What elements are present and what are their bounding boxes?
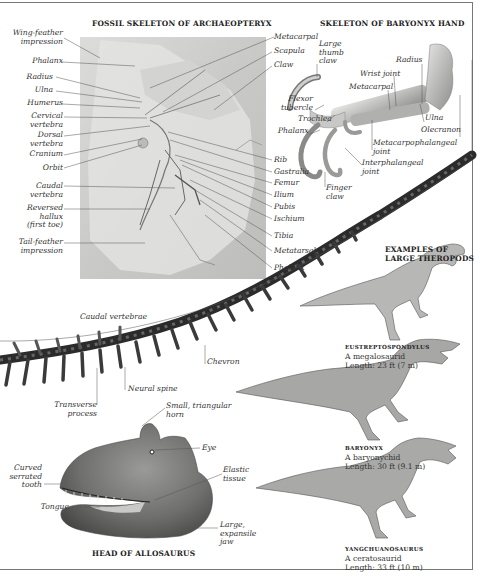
label-metacarpal-hand: Metacarpal xyxy=(349,83,393,92)
label-reversed-hallux: Reversed hallux (first toe) xyxy=(27,204,63,230)
label-claw: Claw xyxy=(274,61,293,70)
label-radius: Radius xyxy=(27,73,54,82)
baryonyx-hand-title: SKELETON OF BARYONYX HAND xyxy=(320,19,465,28)
label-radius-hand: Radius xyxy=(396,56,423,65)
label-small-triangular-horn: Small, triangular horn xyxy=(166,402,231,419)
label-phalanx-left: Phalanx xyxy=(32,57,63,66)
archaeopteryx-title: FOSSIL SKELETON OF ARCHAEOPTERYX xyxy=(92,19,272,28)
label-scapula: Scapula xyxy=(274,47,305,56)
label-dorsal-vertebra: Dorsal vertebra xyxy=(30,131,63,148)
label-wrist-joint: Wrist joint xyxy=(360,70,400,79)
label-ulna-hand: Ulna xyxy=(425,114,443,123)
label-elastic-tissue: Elastic tissue xyxy=(223,466,249,483)
label-humerus: Humerus xyxy=(27,99,63,108)
label-curved-serrated-tooth: Curved serrated tooth xyxy=(9,464,42,490)
label-chevron: Chevron xyxy=(207,358,240,367)
label-ischium: Ischium xyxy=(274,215,305,224)
label-rib: Rib xyxy=(274,156,287,165)
baryonyx-hand-skeleton xyxy=(290,44,453,177)
label-large-thumb-claw: Large thumb claw xyxy=(319,40,344,66)
label-trochlea: Trochlea xyxy=(298,115,332,124)
allosaurus-head-illustration xyxy=(60,424,212,538)
label-ilium: Ilium xyxy=(274,191,294,200)
label-olecranon: Olecranon xyxy=(421,126,461,135)
theropod-type-eustreptospondylus: A megalosaurid xyxy=(345,352,405,361)
label-flexor-tubercle: Flexor tubercle xyxy=(281,95,313,112)
illustration-layer xyxy=(0,0,485,579)
label-gastralia: Gastralia xyxy=(274,168,309,177)
label-neural-spine: Neural spine xyxy=(128,385,178,394)
theropod-length-eustreptospondylus: Length: 23 ft (7 m) xyxy=(345,361,418,370)
allosaurus-head-title: HEAD OF ALLOSAURUS xyxy=(92,549,195,558)
label-femur: Femur xyxy=(274,179,299,188)
theropod-name-eustreptospondylus: EUSTREPTOSPONDYLUS xyxy=(345,344,430,350)
label-caudal-vertebrae: Caudal vertebrae xyxy=(80,313,147,322)
label-metatarsal: Metatarsal xyxy=(274,247,316,256)
label-cervical-vertebra: Cervical vertebra xyxy=(30,112,63,129)
label-ulna: Ulna xyxy=(35,86,53,95)
label-large-expansile-jaw: Large, expansile jaw xyxy=(220,521,256,547)
label-metacarpophalangeal-joint: Metacarpophalangeal joint xyxy=(373,139,457,156)
theropod-name-yangchuanosaurus: YANGCHUANOSAURUS xyxy=(345,546,423,552)
label-cranium: Cranium xyxy=(30,150,63,159)
label-tibia: Tibia xyxy=(274,232,293,241)
label-pubis: Pubis xyxy=(274,203,295,212)
theropods-title: EXAMPLES OF LARGE THEROPODS xyxy=(385,245,474,263)
label-wing-feather-impression: Wing-feather impression xyxy=(13,29,63,46)
theropod-type-yangchuanosaurus: A ceratosaurid xyxy=(345,554,402,563)
theropod-length-yangchuanosaurus: Length: 33 ft (10 m) xyxy=(345,563,423,572)
theropod-name-baryonyx: BARYONYX xyxy=(345,445,383,451)
archaeopteryx-fossil xyxy=(80,37,266,279)
label-interphalangeal-joint: Interphalangeal joint xyxy=(362,159,424,176)
label-transverse-process: Transverse process xyxy=(54,401,97,418)
label-phalanx-right: Phalanx xyxy=(274,264,305,273)
label-phalanx-hand: Phalanx xyxy=(278,127,309,136)
label-tail-feather-impression: Tail-feather impression xyxy=(19,238,63,255)
label-finger-claw: Finger claw xyxy=(326,184,352,201)
label-eye: Eye xyxy=(202,444,216,453)
label-caudal-vertebra: Caudal vertebra xyxy=(30,182,63,199)
label-orbit: Orbit xyxy=(43,164,63,173)
label-tongue: Tongue xyxy=(41,503,69,512)
label-metacarpal-arch: Metacarpal xyxy=(274,33,318,42)
theropod-type-baryonyx: A baryonychid xyxy=(345,453,400,462)
theropod-length-baryonyx: Length: 30 ft (9.1 m) xyxy=(345,462,425,471)
